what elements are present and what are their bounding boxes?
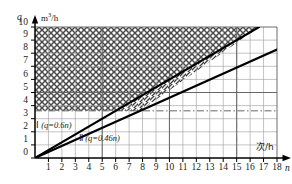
x-tick-15: 15 xyxy=(230,163,244,173)
x-tick-8: 8 xyxy=(137,163,149,173)
y-tick-6: 6 xyxy=(16,70,28,80)
x-tick-12: 12 xyxy=(189,163,203,173)
x-tick-1: 1 xyxy=(42,163,54,173)
y-tick-10: 10 xyxy=(11,18,28,28)
x-tick-16: 16 xyxy=(243,163,257,173)
zone-I-label: Ⅰ (q=0.6n) xyxy=(36,121,72,130)
x-tick-5: 5 xyxy=(96,163,108,173)
y-tick-9: 9 xyxy=(16,30,28,40)
x-tick-6: 6 xyxy=(110,163,122,173)
y-axis-unit: m3/h xyxy=(41,12,58,23)
y-tick-7: 7 xyxy=(16,56,28,66)
x-tick-14: 14 xyxy=(216,163,230,173)
zone-II-equation: (q=0.46n) xyxy=(85,133,120,143)
x-tick-18: 18 xyxy=(270,163,284,173)
y-axis-unit-base: m xyxy=(41,13,48,23)
y-tick-0: 0 xyxy=(16,148,28,158)
x-axis-name: n xyxy=(285,164,290,174)
x-axis-arrow xyxy=(283,155,292,161)
x-tick-4: 4 xyxy=(83,163,95,173)
zone-II-label: Ⅱ (q=0.46n) xyxy=(79,134,120,143)
x-tick-7: 7 xyxy=(123,163,135,173)
x-axis-unit: 次/h xyxy=(256,143,274,152)
x-tick-9: 9 xyxy=(150,163,162,173)
x-tick-13: 13 xyxy=(203,163,217,173)
zone-II-roman: Ⅱ xyxy=(79,133,83,143)
x-tick-2: 2 xyxy=(56,163,68,173)
x-tick-10: 10 xyxy=(162,163,176,173)
y-tick-3: 3 xyxy=(16,109,28,119)
y-tick-2: 2 xyxy=(16,122,28,132)
zone-I-equation: (q=0.6n) xyxy=(41,120,72,130)
pump-selection-chart: q m3/h 0 1 2 3 4 5 6 7 8 9 10 1 2 3 4 5 … xyxy=(0,0,292,184)
y-tick-4: 4 xyxy=(16,96,28,106)
y-tick-1: 1 xyxy=(16,135,28,145)
x-tick-3: 3 xyxy=(69,163,81,173)
chart-canvas xyxy=(0,0,292,184)
x-tick-11: 11 xyxy=(176,163,190,173)
x-tick-17: 17 xyxy=(257,163,271,173)
y-tick-8: 8 xyxy=(16,43,28,53)
zone-I-roman: Ⅰ xyxy=(36,120,39,130)
y-axis-unit-tail: /h xyxy=(51,13,58,23)
y-tick-5: 5 xyxy=(16,83,28,93)
y-axis-arrow xyxy=(32,15,38,24)
